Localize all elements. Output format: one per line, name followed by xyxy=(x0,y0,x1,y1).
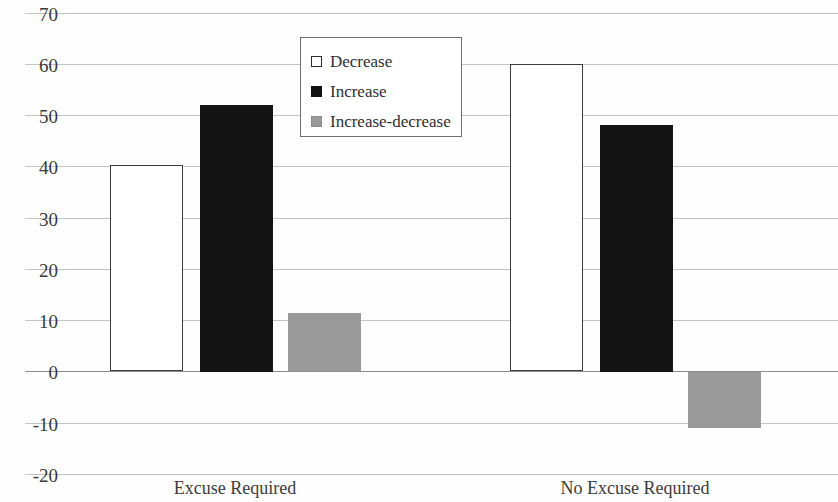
ytick-label-10: 10 xyxy=(0,312,58,331)
legend-swatch-decrease-icon xyxy=(311,56,322,67)
ytick-label-minus-10: -10 xyxy=(0,415,58,434)
gridline-70 xyxy=(25,13,838,14)
legend-item-decrease[interactable]: Decrease xyxy=(311,46,461,76)
legend-swatch-increase-decrease-icon xyxy=(311,116,322,127)
ytick-label-0: 0 xyxy=(0,363,58,382)
ytick-label-20: 20 xyxy=(0,261,58,280)
bar-no-excuse-required-increase[interactable] xyxy=(600,125,673,372)
legend-label-increase: Increase xyxy=(330,83,387,100)
bar-no-excuse-required-decrease[interactable] xyxy=(510,64,583,371)
legend-item-increase-decrease[interactable]: Increase-decrease xyxy=(311,106,461,136)
xtick-label-excuse-required: Excuse Required xyxy=(135,478,335,499)
bar-chart: 70 60 50 40 30 20 10 0 -10 -20 Excuse Re… xyxy=(0,0,838,502)
bar-excuse-required-increase[interactable] xyxy=(200,105,273,371)
legend-label-decrease: Decrease xyxy=(330,53,392,70)
ytick-label-70: 70 xyxy=(0,5,58,24)
ytick-label-30: 30 xyxy=(0,210,58,229)
legend-swatch-increase-icon xyxy=(311,86,322,97)
bar-no-excuse-required-increase-decrease[interactable] xyxy=(688,372,761,428)
ytick-label-50: 50 xyxy=(0,107,58,126)
ytick-label-minus-20: -20 xyxy=(0,466,58,485)
bar-excuse-required-decrease[interactable] xyxy=(110,165,183,371)
legend-label-increase-decrease: Increase-decrease xyxy=(330,113,451,130)
bar-excuse-required-increase-decrease[interactable] xyxy=(288,313,361,372)
xtick-label-no-excuse-required: No Excuse Required xyxy=(535,478,735,499)
chart-legend: Decrease Increase Increase-decrease xyxy=(300,37,462,137)
ytick-label-40: 40 xyxy=(0,158,58,177)
legend-item-increase[interactable]: Increase xyxy=(311,76,461,106)
ytick-label-60: 60 xyxy=(0,56,58,75)
gridline-minus-20 xyxy=(25,474,838,475)
